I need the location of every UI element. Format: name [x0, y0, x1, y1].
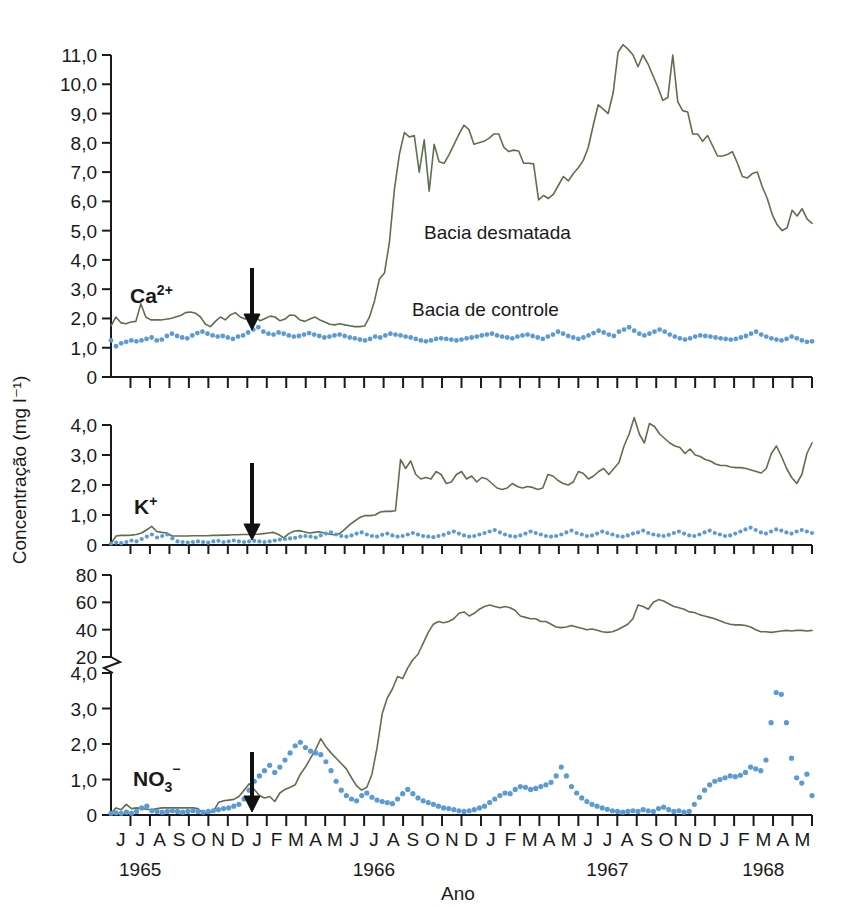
- control-data-point: [533, 786, 538, 791]
- control-data-point: [554, 773, 559, 778]
- control-data-point: [431, 802, 436, 807]
- control-data-point: [554, 534, 558, 538]
- control-data-point: [129, 538, 133, 542]
- control-data-point: [784, 530, 788, 534]
- control-data-point: [273, 538, 277, 542]
- x-month-label: D: [698, 829, 712, 850]
- control-data-point: [698, 333, 703, 338]
- control-data-point: [795, 529, 799, 533]
- y-tick-label: 0: [86, 805, 97, 826]
- x-year-label: 1965: [119, 859, 161, 880]
- control-data-point: [571, 335, 576, 340]
- control-data-point: [559, 764, 564, 769]
- control-data-point: [150, 532, 154, 536]
- y-tick-label: 5,0: [71, 221, 97, 242]
- no3-treatment-arrow: [244, 752, 260, 812]
- x-month-label: S: [173, 829, 186, 850]
- control-data-point: [114, 541, 118, 545]
- control-data-point: [621, 535, 625, 539]
- control-data-point: [632, 328, 637, 333]
- control-data-point: [528, 787, 533, 792]
- control-data-point: [753, 766, 758, 771]
- control-data-point: [312, 332, 317, 337]
- control-data-point: [789, 334, 794, 339]
- control-data-point: [231, 804, 236, 809]
- control-data-point: [646, 808, 651, 813]
- control-data-point: [688, 336, 693, 341]
- control-data-point: [749, 526, 753, 530]
- control-data-point: [789, 532, 793, 536]
- control-data-point: [383, 333, 388, 338]
- control-data-point: [369, 795, 374, 800]
- y-tick-label: 2,0: [71, 308, 97, 329]
- control-data-point: [508, 534, 512, 538]
- control-data-point: [600, 529, 604, 533]
- control-data-point: [467, 535, 471, 539]
- control-data-point: [155, 535, 159, 539]
- control-data-point: [513, 535, 517, 539]
- control-data-point: [625, 809, 630, 814]
- control-data-point: [487, 800, 492, 805]
- control-data-point: [667, 332, 672, 337]
- x-month-label: F: [504, 829, 516, 850]
- control-data-point: [631, 532, 635, 536]
- control-data-point: [160, 534, 164, 538]
- control-data-point: [293, 743, 298, 748]
- x-month-label: S: [406, 829, 419, 850]
- control-data-point: [595, 532, 599, 536]
- control-data-point: [134, 539, 138, 543]
- control-data-point: [406, 532, 410, 536]
- control-data-point: [302, 332, 307, 337]
- control-data-point: [454, 338, 459, 343]
- control-data-point: [589, 802, 594, 807]
- control-data-point: [479, 333, 484, 338]
- legend-control-label: Bacia de controle: [412, 299, 559, 320]
- control-data-point: [358, 337, 363, 342]
- x-month-label: O: [191, 829, 206, 850]
- control-data-point: [283, 537, 287, 541]
- control-data-point: [119, 341, 124, 346]
- control-data-point: [606, 332, 611, 337]
- control-data-point: [601, 330, 606, 335]
- control-data-point: [717, 777, 722, 782]
- control-data-point: [656, 806, 661, 811]
- y-tick-label: 3,0: [71, 445, 97, 466]
- control-data-point: [373, 334, 378, 339]
- x-month-label: J: [252, 829, 262, 850]
- control-data-point: [749, 331, 754, 336]
- control-data-point: [388, 331, 393, 336]
- control-data-point: [288, 536, 292, 540]
- control-data-point: [231, 337, 236, 342]
- control-data-point: [743, 770, 748, 775]
- control-data-point: [180, 335, 185, 340]
- control-data-point: [109, 338, 114, 343]
- control-data-point: [549, 535, 553, 539]
- control-data-point: [446, 806, 451, 811]
- ca-control-dots: [109, 325, 815, 349]
- control-data-point: [620, 810, 625, 815]
- control-data-point: [610, 532, 614, 536]
- control-data-point: [339, 534, 343, 538]
- control-data-point: [398, 333, 403, 338]
- control-data-point: [728, 773, 733, 778]
- control-data-point: [615, 534, 619, 538]
- control-data-point: [605, 531, 609, 535]
- x-month-label: M: [327, 829, 343, 850]
- control-data-point: [159, 337, 164, 342]
- x-month-label: M: [522, 829, 538, 850]
- y-tick-label: 1,0: [71, 770, 97, 791]
- control-data-point: [503, 532, 507, 536]
- control-data-point: [703, 334, 708, 339]
- control-data-point: [287, 750, 292, 755]
- x-month-label: J: [583, 829, 593, 850]
- control-data-point: [697, 795, 702, 800]
- control-data-point: [490, 331, 495, 336]
- control-data-point: [266, 331, 271, 336]
- y-tick-label: 8,0: [71, 133, 97, 154]
- control-data-point: [328, 768, 333, 773]
- control-data-point: [472, 534, 476, 538]
- control-data-point: [278, 538, 282, 542]
- control-data-point: [421, 798, 426, 803]
- control-data-point: [200, 329, 205, 334]
- control-data-point: [390, 533, 394, 537]
